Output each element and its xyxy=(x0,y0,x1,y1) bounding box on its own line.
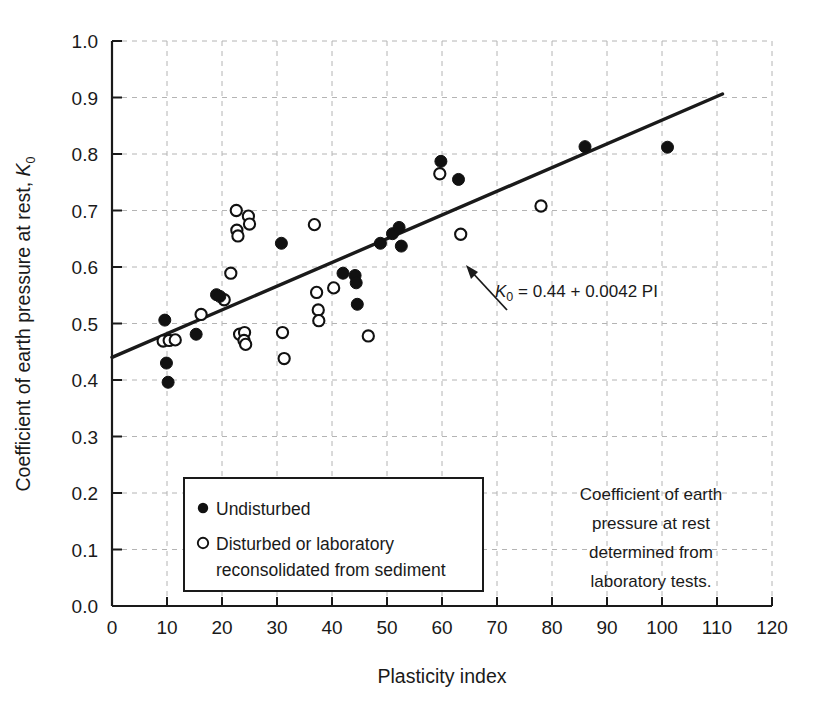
legend-box: Undisturbed Disturbed or laboratory reco… xyxy=(184,478,483,591)
data-point-disturbed xyxy=(170,334,181,345)
y-tick-label: 0.2 xyxy=(72,483,98,504)
data-point-undisturbed xyxy=(190,328,202,340)
data-point-disturbed xyxy=(434,168,445,179)
x-tick-label: 90 xyxy=(596,617,617,638)
data-point-undisturbed xyxy=(395,240,407,252)
svg-text:Coefficient of earth pressure: Coefficient of earth pressure at rest, K… xyxy=(12,156,38,491)
x-tick-label: 120 xyxy=(756,617,788,638)
data-point-disturbed xyxy=(231,205,242,216)
data-point-disturbed xyxy=(455,229,466,240)
data-point-disturbed xyxy=(328,282,339,293)
y-tick-label: 0.7 xyxy=(72,201,98,222)
y-tick-label: 0.5 xyxy=(72,314,98,335)
y-tick-label: 0.9 xyxy=(72,88,98,109)
data-point-disturbed xyxy=(240,339,251,350)
data-point-undisturbed xyxy=(159,314,171,326)
annotation-line: laboratory tests. xyxy=(591,572,712,591)
data-point-disturbed xyxy=(363,330,374,341)
x-tick-label: 0 xyxy=(107,617,118,638)
data-point-disturbed xyxy=(535,200,546,211)
y-tick-label: 0.4 xyxy=(72,370,99,391)
data-point-disturbed xyxy=(309,219,320,230)
annotation-line: Coefficient of earth xyxy=(580,485,722,504)
x-tick-label: 20 xyxy=(211,617,232,638)
legend-label-disturbed-line1: Disturbed or laboratory xyxy=(216,534,394,554)
y-axis-title-symbol: K xyxy=(12,162,34,176)
data-point-undisturbed xyxy=(162,376,174,388)
x-tick-label: 50 xyxy=(376,617,397,638)
x-tick-label: 110 xyxy=(702,617,732,638)
data-point-undisturbed xyxy=(337,267,349,279)
y-tick-label: 1.0 xyxy=(72,31,98,52)
y-tick-label: 0.0 xyxy=(72,596,98,617)
x-tick-label: 80 xyxy=(541,617,562,638)
fit-line-equation-label: K0 = 0.44 + 0.0042 PI xyxy=(495,282,658,304)
data-point-undisturbed xyxy=(214,290,226,302)
chart-canvas: 0102030405060708090100110120 0.00.10.20.… xyxy=(0,0,817,704)
equation-body: = 0.44 + 0.0042 PI xyxy=(513,282,658,301)
data-point-undisturbed xyxy=(275,237,287,249)
data-point-undisturbed xyxy=(393,221,405,233)
data-point-disturbed xyxy=(232,230,243,241)
y-tick-label: 0.3 xyxy=(72,427,98,448)
legend-label-disturbed-line2: reconsolidated from sediment xyxy=(216,560,446,580)
figure-scatter-k0-vs-plasticity-index: 0102030405060708090100110120 0.00.10.20.… xyxy=(0,0,817,704)
y-tick-label: 0.1 xyxy=(72,540,98,561)
x-axis-title: Plasticity index xyxy=(378,665,507,687)
y-tick-label: 0.6 xyxy=(72,257,98,278)
data-point-disturbed xyxy=(313,315,324,326)
equation-subscript: 0 xyxy=(506,290,513,304)
data-point-undisturbed xyxy=(351,298,363,310)
x-tick-label: 70 xyxy=(486,617,507,638)
svg-text:K0 = 0.44 + 0.0042 PI: K0 = 0.44 + 0.0042 PI xyxy=(495,282,658,304)
annotation-note: Coefficient of earthpressure at restdete… xyxy=(580,485,722,591)
annotation-line: determined from xyxy=(589,543,713,562)
data-point-undisturbed xyxy=(374,237,386,249)
x-tick-label: 40 xyxy=(321,617,342,638)
data-point-disturbed xyxy=(277,327,288,338)
equation-symbol: K xyxy=(495,282,507,301)
x-tick-label: 30 xyxy=(266,617,287,638)
series-disturbed-points xyxy=(158,168,547,364)
data-point-disturbed xyxy=(311,287,322,298)
data-point-disturbed xyxy=(244,218,255,229)
data-point-disturbed xyxy=(313,304,324,315)
data-point-disturbed xyxy=(196,309,207,320)
y-tick-labels: 0.00.10.20.30.40.50.60.70.80.91.0 xyxy=(72,31,99,617)
data-point-disturbed xyxy=(279,353,290,364)
y-axis-title-subscript: 0 xyxy=(24,156,38,163)
legend-marker-disturbed xyxy=(198,538,208,548)
data-point-undisturbed xyxy=(662,141,674,153)
data-point-undisturbed xyxy=(160,357,172,369)
y-tick-label: 0.8 xyxy=(72,144,98,165)
annotation-line: pressure at rest xyxy=(592,514,710,533)
data-point-undisturbed xyxy=(435,155,447,167)
legend-label-undisturbed: Undisturbed xyxy=(216,499,310,519)
data-point-undisturbed xyxy=(453,173,465,185)
x-tick-labels: 0102030405060708090100110120 xyxy=(107,617,788,638)
x-tick-label: 100 xyxy=(646,617,678,638)
data-point-undisturbed xyxy=(350,277,362,289)
series-undisturbed-points xyxy=(159,141,674,389)
data-point-undisturbed xyxy=(579,141,591,153)
x-tick-label: 10 xyxy=(156,617,177,638)
x-tick-label: 60 xyxy=(431,617,452,638)
y-axis-title-text: Coefficient of earth pressure at rest, xyxy=(12,176,34,491)
legend-marker-undisturbed xyxy=(198,503,208,513)
y-axis-title: Coefficient of earth pressure at rest, K… xyxy=(12,156,38,491)
data-point-disturbed xyxy=(225,268,236,279)
